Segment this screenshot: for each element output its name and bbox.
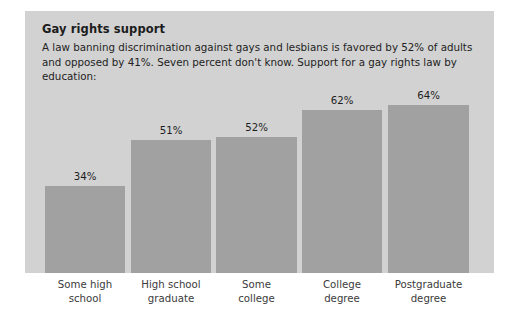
category-label-line: degree: [302, 292, 382, 306]
bar-slot-2: 52%: [216, 90, 297, 273]
bar-slot-3: 62%: [302, 90, 382, 273]
category-label-line: school: [45, 292, 125, 306]
bar-column-some-college: 52%: [216, 90, 297, 273]
category-label-line: degree: [388, 292, 469, 306]
chart-figure: Gay rights support A law banning discrim…: [0, 0, 513, 322]
category-label-line: High school: [131, 278, 211, 292]
category-label-postgraduate-degree: Postgraduate degree: [388, 278, 469, 305]
bar-value-label: 51%: [160, 125, 183, 137]
category-label-line: college: [216, 292, 297, 306]
bar-rect[interactable]: [388, 105, 469, 273]
bar-slot-0: 34%: [45, 90, 125, 273]
bar-value-label: 34%: [74, 171, 97, 183]
bar-rect[interactable]: [216, 137, 297, 273]
chart-subtitle: A law banning discrimination against gay…: [42, 40, 479, 84]
category-label-some-high-school: Some high school: [45, 278, 125, 305]
bar-column-high-school-graduate: 51%: [131, 90, 211, 273]
bar-column-postgraduate-degree: 64%: [388, 90, 469, 273]
bar-rect[interactable]: [45, 186, 125, 273]
category-label-high-school-graduate: High school graduate: [131, 278, 211, 305]
bar-column-some-high-school: 34%: [45, 90, 125, 273]
bar-value-label: 64%: [417, 90, 440, 102]
category-label-college-degree: College degree: [302, 278, 382, 305]
category-label-line: graduate: [131, 292, 211, 306]
bar-value-label: 52%: [245, 122, 268, 134]
bar-slot-4: 64%: [388, 90, 469, 273]
category-axis: Some high school High school graduate So…: [25, 278, 494, 318]
plot-area: 34% 51% 52% 62% 64%: [25, 90, 494, 273]
category-label-some-college: Some college: [216, 278, 297, 305]
category-label-line: Some high: [45, 278, 125, 292]
category-label-line: Some: [216, 278, 297, 292]
bar-value-label: 62%: [331, 95, 354, 107]
category-label-line: College: [302, 278, 382, 292]
bar-slot-1: 51%: [131, 90, 211, 273]
bar-rect[interactable]: [131, 140, 211, 273]
category-label-line: Postgraduate: [388, 278, 469, 292]
chart-title: Gay rights support: [42, 22, 482, 36]
chart-header: Gay rights support A law banning discrim…: [42, 22, 482, 84]
bar-column-college-degree: 62%: [302, 90, 382, 273]
bar-rect[interactable]: [302, 110, 382, 273]
